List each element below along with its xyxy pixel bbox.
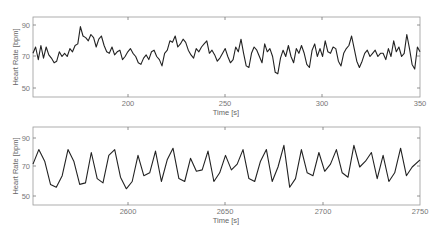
x-axis-label: Time [s] bbox=[213, 216, 239, 225]
y-axis-label: Heart Rate [bpm] bbox=[11, 28, 20, 85]
xtick-label: 2700 bbox=[315, 207, 332, 216]
ytick-label: 70 bbox=[22, 162, 30, 171]
ytick-label: 90 bbox=[22, 21, 30, 30]
y-axis-label: Heart Rate [bpm] bbox=[11, 137, 20, 194]
ytick-label: 70 bbox=[22, 52, 30, 61]
heart-rate-line-bottom bbox=[33, 145, 420, 189]
plot-bottom: 90 70 50 2600 2650 2700 2750 Time [s] He… bbox=[11, 127, 428, 225]
xtick-label: 200 bbox=[122, 99, 135, 108]
plot-top: 90 70 50 200 250 300 350 Time [s] Heart … bbox=[11, 17, 426, 117]
xtick-label: 2600 bbox=[120, 207, 137, 216]
xtick-label: 2650 bbox=[217, 207, 234, 216]
ytick-label: 90 bbox=[22, 134, 30, 143]
figure: 90 70 50 200 250 300 350 Time [s] Heart … bbox=[0, 0, 441, 235]
x-axis-label: Time [s] bbox=[213, 108, 239, 117]
xtick-label: 300 bbox=[316, 99, 329, 108]
heart-rate-line-top bbox=[33, 27, 420, 74]
xtick-label: 250 bbox=[219, 99, 232, 108]
xtick-label: 2750 bbox=[412, 207, 429, 216]
axes-frame-top bbox=[33, 17, 420, 97]
ytick-label: 50 bbox=[22, 84, 30, 93]
xtick-label: 350 bbox=[414, 99, 427, 108]
axes-frame-bottom bbox=[33, 127, 420, 205]
ytick-label: 50 bbox=[22, 192, 30, 201]
